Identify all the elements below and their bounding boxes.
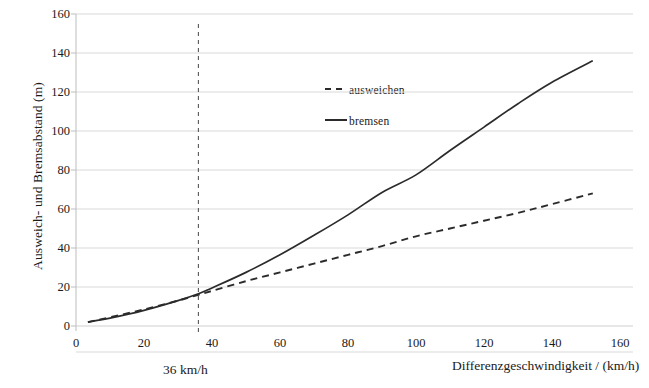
plot-area [0,0,649,388]
y-axis-ticks [71,14,76,326]
gridlines [76,14,633,352]
series-line-bremsen [88,61,593,322]
chart-container: Ausweich- und Bremsabstand (m) 160 140 1… [0,0,649,388]
series-line-ausweichen [88,193,593,322]
